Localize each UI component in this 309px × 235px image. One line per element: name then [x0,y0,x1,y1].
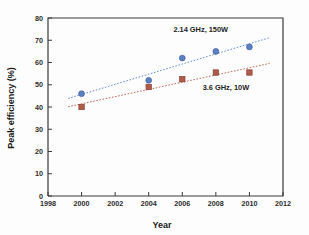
x-tick-label: 2010 [241,199,257,208]
y-tick-label: 60 [35,58,43,67]
data-point-marker [79,104,84,109]
data-point-marker [213,70,218,75]
x-tick-label: 2002 [107,199,123,208]
data-point-marker [180,76,185,81]
x-tick-label: 2000 [74,199,90,208]
y-axis: 01020304050607080 [35,14,52,201]
data-point-marker [79,91,85,97]
data-point-marker [179,55,185,61]
peak-efficiency-scatter-chart: 01020304050607080 1998200020022004200620… [0,0,309,235]
y-tick-label: 70 [35,36,43,45]
x-axis-title: Year [152,220,172,230]
y-tick-label: 20 [35,147,43,156]
chart-figure: 01020304050607080 1998200020022004200620… [0,0,309,235]
data-point-marker [247,44,253,50]
x-tick-label: 2004 [141,199,157,208]
series-annotation-label: 2.14 GHz, 150W [173,25,228,34]
x-tick-label: 2012 [275,199,291,208]
x-axis: 19982000200220042006200820102012 [40,192,291,208]
x-tick-label: 1998 [40,199,56,208]
y-tick-label: 10 [35,169,43,178]
trend-lines [68,38,269,107]
y-tick-label: 40 [35,103,43,112]
data-point-marker [146,84,151,89]
data-markers [79,44,253,110]
data-point-marker [247,70,252,75]
y-tick-label: 30 [35,125,43,134]
y-tick-label: 50 [35,80,43,89]
data-point-marker [146,77,152,83]
x-tick-label: 2008 [208,199,224,208]
x-tick-label: 2006 [174,199,190,208]
y-axis-title: Peak efficiency (%) [6,67,16,149]
data-point-marker [213,48,219,54]
series-annotation-label: 3.6 GHz, 10W [203,83,249,92]
y-tick-label: 80 [35,14,43,23]
